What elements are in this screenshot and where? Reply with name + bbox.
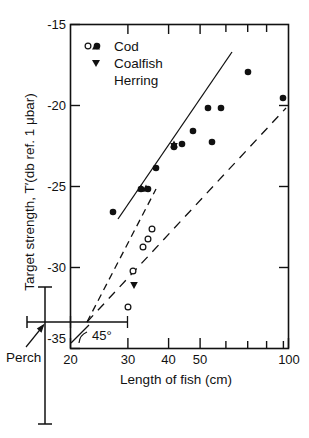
trend-lines bbox=[87, 52, 286, 322]
data-point bbox=[130, 282, 138, 289]
y-tick-label: -20 bbox=[47, 98, 66, 113]
chart-svg: -15 -20 -25 -30 -35 20 30 40 50 100 Leng… bbox=[0, 0, 309, 438]
data-point bbox=[110, 209, 117, 216]
x-axis-top-ticks bbox=[128, 25, 267, 34]
data-point bbox=[280, 95, 287, 102]
x-tick-label: 20 bbox=[63, 352, 77, 367]
data-point bbox=[125, 304, 131, 310]
data-markers-cod-open bbox=[125, 226, 155, 310]
data-point bbox=[145, 236, 151, 242]
data-point bbox=[140, 244, 146, 250]
data-point bbox=[218, 105, 225, 112]
legend: Cod Coalfish Herring bbox=[85, 39, 163, 88]
y-tick-label: -35 bbox=[47, 331, 66, 346]
legend-open-circle-icon bbox=[85, 43, 91, 49]
perch-leader-arrow bbox=[26, 325, 44, 347]
y-axis-left-ticks bbox=[71, 25, 81, 349]
x-tick-label: 100 bbox=[278, 352, 300, 367]
x-tick-label: 30 bbox=[121, 352, 135, 367]
legend-label-cod: Cod bbox=[114, 39, 139, 54]
data-markers-herring bbox=[130, 143, 178, 289]
data-point bbox=[179, 141, 186, 148]
y-tick-label: -25 bbox=[47, 179, 66, 194]
y-tick-labels: -15 -20 -25 -30 -35 bbox=[47, 17, 66, 346]
y-tick-label: -15 bbox=[47, 17, 66, 32]
x-tick-labels: 20 30 40 50 100 bbox=[63, 352, 300, 367]
data-point bbox=[205, 105, 212, 112]
data-point bbox=[245, 69, 252, 76]
data-point bbox=[209, 139, 216, 146]
regression-dashed-upper-line bbox=[87, 189, 156, 322]
axes-frame bbox=[71, 25, 289, 349]
angle-label: 45° bbox=[92, 328, 112, 343]
data-point bbox=[190, 128, 197, 135]
legend-label-herring: Herring bbox=[114, 73, 158, 88]
x-tick-label: 40 bbox=[161, 352, 175, 367]
legend-label-coalfish: Coalfish bbox=[114, 56, 163, 71]
figure-container: -15 -20 -25 -30 -35 20 30 40 50 100 Leng… bbox=[0, 0, 309, 438]
legend-triangle-down-icon bbox=[92, 60, 100, 67]
x-axis-minor-ticks bbox=[226, 341, 284, 348]
data-point bbox=[153, 165, 160, 172]
reference-dashed-lower-line bbox=[87, 108, 286, 322]
y-axis-right-ticks bbox=[279, 106, 289, 268]
data-point bbox=[149, 226, 155, 232]
y-tick-label: -30 bbox=[47, 260, 66, 275]
perch-label: Perch bbox=[6, 350, 41, 365]
x-tick-label: 50 bbox=[193, 352, 207, 367]
y-axis-label: Target strength, T′(db ref. 1 μbar) bbox=[22, 93, 37, 291]
data-point bbox=[130, 268, 136, 274]
x-axis-label: Length of fish (cm) bbox=[120, 372, 232, 387]
